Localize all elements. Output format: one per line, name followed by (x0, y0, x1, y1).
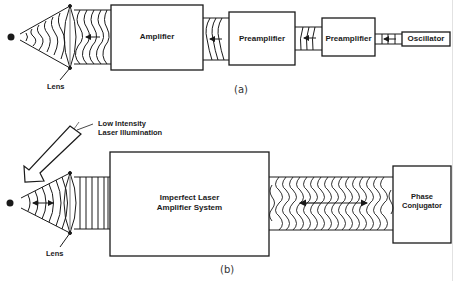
page-edge-rule (452, 0, 453, 281)
figure-b (7, 122, 452, 256)
focal-point-a (8, 34, 15, 41)
imperfect-amplifier-label-line2: Amplifier System (110, 203, 269, 213)
illumination-label-line1: Low Intensity (98, 119, 146, 128)
lens-label-a: Lens (47, 82, 65, 91)
caption-a: (a) (234, 84, 248, 95)
focal-point-b (7, 200, 14, 207)
illumination-arrow (24, 126, 81, 182)
phase-conjugator-label-line2: Conjugator (393, 201, 451, 211)
oscillator-label: Oscillator (402, 34, 450, 44)
amplifier-label: Amplifier (111, 32, 203, 42)
preamplifier-1-label: Preamplifier (229, 34, 295, 44)
preamplifier-2-label: Preamplifier (322, 34, 375, 44)
imperfect-amplifier-label-line1: Imperfect Laser (110, 193, 269, 203)
lens-label-b: Lens (46, 249, 64, 258)
illumination-label-line2: Laser Illumination (98, 128, 162, 137)
caption-b: (b) (220, 264, 234, 275)
